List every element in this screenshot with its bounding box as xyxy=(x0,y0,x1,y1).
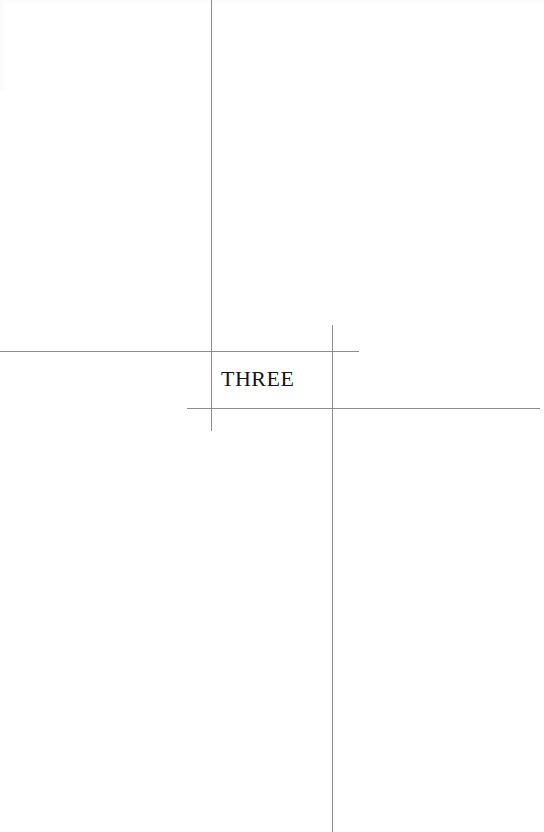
divider-rule-horizontal-upper xyxy=(0,351,359,352)
scan-edge-left xyxy=(0,0,5,90)
divider-rule-horizontal-lower xyxy=(187,408,540,409)
chapter-title: THREE xyxy=(221,357,294,395)
divider-rule-vertical-left xyxy=(211,0,212,431)
scan-edge-top xyxy=(0,0,544,6)
book-page: THREE xyxy=(0,0,544,832)
divider-rule-vertical-right xyxy=(332,325,333,832)
